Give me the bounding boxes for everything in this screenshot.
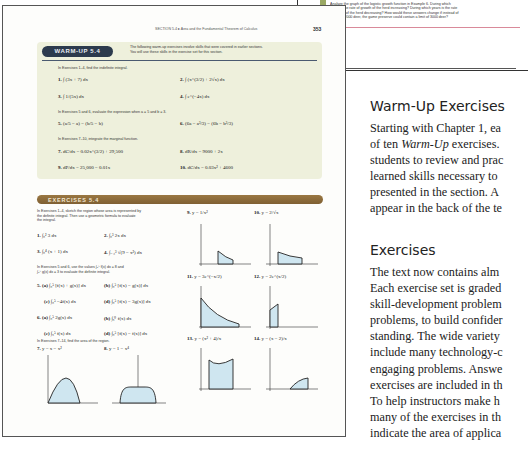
exercise-5b: (b) ∫₀⁵ [f(x) − g(x)] dx	[104, 283, 148, 288]
accent-divider	[330, 27, 520, 28]
exercise-11-label: 11. y = 3e^(−x/2)	[187, 274, 222, 279]
exercise-7-label: 7. y = x − x²	[37, 346, 62, 351]
graph-8	[108, 353, 168, 408]
section-divider	[346, 68, 516, 69]
warmup-paragraph: Starting with Chapter 1, ea of ten Warm-…	[370, 120, 503, 217]
warmup-problem-6: 6. (6a − a³/3) − (6b − b³/3)	[180, 121, 233, 126]
warmup-problem-2: 2. ∫ (x^(3/2) + 2√x) dx	[180, 77, 225, 82]
graph-13	[193, 346, 253, 396]
exercise-5d: (d) ∫₀⁵ [f(x) − 3g(x)] dx	[104, 299, 151, 304]
exercises-heading: Exercises	[370, 242, 436, 258]
exercises-instructions-2: In Exercises 5 and 6, use the values ∫₀⁵…	[37, 265, 124, 274]
warmup-instructions-3: In Exercises 7–10, integrate the margina…	[58, 137, 138, 141]
graph-9	[193, 222, 253, 270]
exercise-1: 1. ∫₀² 3 dx	[37, 233, 57, 238]
exercise-14-label: 14. y = (x − 2)/x	[254, 336, 287, 341]
warmup-rule	[42, 60, 317, 61]
exercise-3: 3. ∫₀⁴ (x + 1) dx	[37, 249, 68, 254]
exercise-4: 4. ∫₋₃³ √(9 − x²) dx	[104, 249, 142, 255]
text-line: You will use these skills in the exercis…	[130, 50, 310, 55]
running-head: SECTION 5.4 ▸ Area and the Fundamental T…	[155, 27, 325, 31]
exercise-5a: 5. (a) ∫₀⁵ [f(x) + g(x)] dx	[37, 283, 86, 288]
warmup-badge: WARM-UP 5.4	[42, 46, 113, 57]
warmup-problem-9: 9. dP/dx = 25,000 − 0.01x	[58, 165, 110, 170]
exercises-paragraph: The text now contains alm Each exercise …	[370, 264, 503, 441]
warmup-intro: The following warm-up exercises involve …	[130, 45, 310, 55]
warmup-problem-5: 5. (a/5 − a) − (b/5 − b)	[58, 121, 103, 126]
background-page-text: Analyze the graph of the logistic growth…	[330, 2, 520, 20]
exercise-13-label: 13. y = (x² + 4)/x	[187, 336, 221, 341]
exercises-instructions-3: In Exercises 7–14, find the area of the …	[37, 339, 110, 343]
warmup-instructions-1: In Exercises 1–4, find the indefinite in…	[58, 66, 128, 70]
warmup-problem-3: 3. ∫ 1/(5x) dx	[58, 94, 84, 99]
exercise-6d: (d) ∫₀⁵ [f(x) − f(x)] dx	[104, 331, 147, 336]
exercises-title: EXERCISES 5.4	[48, 196, 99, 204]
exercise-9-label: 9. y = 1/x²	[187, 210, 208, 215]
exercise-5c: (c) ∫₀⁵ −4f(x) dx	[44, 299, 76, 304]
page-number: 353	[313, 26, 321, 32]
exercise-6a: 6. (a) ∫₀⁵ 2g(x) dx	[37, 315, 72, 320]
graph-11	[193, 284, 253, 332]
exercise-6b: (b) ∫₅⁰ f(x) dx	[104, 315, 131, 321]
exercise-6c: (c) ∫₅⁵ f(x) dx	[44, 331, 71, 336]
warmup-instructions-2: In Exercises 5 and 6, evaluate the expre…	[58, 110, 166, 114]
graph-12	[260, 284, 320, 332]
exercise-8-label: 8. y = 1 − x⁴	[104, 346, 129, 351]
exercises-instructions-1: In Exercises 1–4, sketch the region whos…	[37, 209, 141, 223]
exercise-12-label: 12. y = 2e^(x/2)	[254, 274, 286, 279]
exercise-2: 2. ∫₀³ 2x dx	[104, 233, 126, 238]
warmup-problem-1: 1. ∫ (3x + 7) dx	[58, 77, 88, 82]
warmup-heading: Warm-Up Exercises	[370, 98, 505, 114]
text-line: a limit of 2000 deer, the game preserve …	[330, 15, 520, 19]
warmup-problem-7: 7. dC/dx = 0.02x^(3/2) + 29,500	[58, 149, 123, 154]
warmup-problem-4: 4. ∫ e^(−4x) dx	[180, 94, 210, 99]
graph-14	[260, 346, 320, 396]
graph-10	[260, 222, 320, 270]
warmup-problem-8: 8. dR/dx = 9000 + 2x	[180, 149, 223, 154]
warmup-problem-10: 10. dC/dx = 0.03x² + 4600	[180, 165, 233, 170]
exercise-10-label: 10. y = 2/√x	[254, 210, 278, 215]
graph-7	[40, 353, 100, 408]
